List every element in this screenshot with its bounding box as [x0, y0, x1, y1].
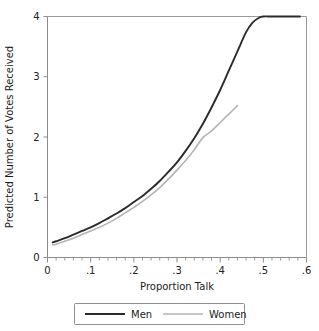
series-line-women: [53, 106, 238, 245]
y-axis-ticks: 01234: [33, 11, 47, 263]
x-tick-label: .6: [302, 265, 312, 276]
x-axis-ticks: 0.1.2.3.4.5.6: [44, 258, 311, 276]
y-tick-label: 2: [33, 132, 39, 143]
x-tick-label: 0: [44, 265, 50, 276]
legend-label-men: Men: [131, 309, 152, 320]
x-tick-label: .1: [86, 265, 96, 276]
chart-figure: 01234 0.1.2.3.4.5.6 Proportion Talk Pred…: [0, 0, 319, 331]
y-tick-label: 1: [33, 192, 39, 203]
x-tick-label: .2: [129, 265, 139, 276]
y-axis-title: Predicted Number of Votes Received: [4, 46, 15, 228]
chart-legend: Men Women: [75, 304, 247, 325]
y-tick-label: 3: [33, 71, 39, 82]
legend-label-women: Women: [209, 309, 247, 320]
x-tick-label: .4: [215, 265, 225, 276]
x-tick-label: .3: [172, 265, 182, 276]
plot-frame: [48, 17, 307, 258]
line-chart: 01234 0.1.2.3.4.5.6 Proportion Talk Pred…: [0, 0, 319, 331]
x-axis-title: Proportion Talk: [140, 281, 214, 292]
x-tick-label: .5: [259, 265, 269, 276]
series-line-men: [53, 16, 300, 242]
y-tick-label: 4: [33, 11, 39, 22]
y-tick-label: 0: [33, 252, 39, 263]
